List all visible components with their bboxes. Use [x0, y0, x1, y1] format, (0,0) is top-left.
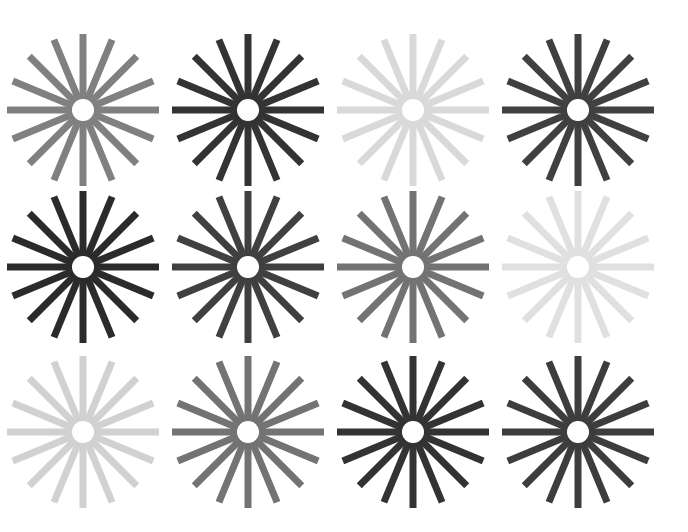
center-hub: [567, 421, 589, 443]
center-hub: [237, 421, 259, 443]
starburst-marker: [168, 30, 328, 190]
center-hub: [72, 256, 94, 278]
starburst-grid: [0, 0, 688, 532]
starburst-marker: [498, 352, 658, 512]
center-hub: [72, 99, 94, 121]
center-hub: [237, 256, 259, 278]
starburst-marker: [333, 187, 493, 347]
center-hub: [402, 421, 424, 443]
figure-canvas: [0, 0, 688, 532]
center-hub: [567, 99, 589, 121]
starburst-marker: [3, 352, 163, 512]
center-hub: [72, 421, 94, 443]
center-hub: [402, 256, 424, 278]
starburst-marker: [333, 352, 493, 512]
starburst-marker: [3, 187, 163, 347]
starburst-marker: [498, 30, 658, 190]
starburst-marker: [168, 352, 328, 512]
center-hub: [567, 256, 589, 278]
starburst-marker: [498, 187, 658, 347]
starburst-marker: [333, 30, 493, 190]
starburst-marker: [3, 30, 163, 190]
center-hub: [402, 99, 424, 121]
center-hub: [237, 99, 259, 121]
starburst-marker: [168, 187, 328, 347]
